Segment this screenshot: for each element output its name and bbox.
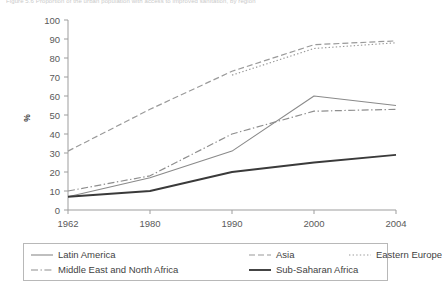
y-tick-label: 50 — [49, 110, 60, 121]
legend-item[interactable]: Asia — [249, 249, 294, 260]
legend-label: Latin America — [58, 249, 116, 260]
y-axis-ticks: 0102030405060708090100 — [44, 15, 68, 216]
x-tick-label: 2004 — [385, 218, 406, 229]
chart-plot-area: 0102030405060708090100 19621980199020002… — [0, 0, 414, 236]
legend-label: Middle East and North Africa — [58, 264, 178, 275]
legend-row: Middle East and North AfricaSub-Saharan … — [31, 263, 380, 278]
y-axis-title: % — [22, 114, 32, 122]
legend-item[interactable]: Middle East and North Africa — [31, 264, 178, 275]
y-tick-label: 100 — [44, 15, 60, 26]
chart-series-line — [232, 43, 396, 75]
legend-item[interactable]: Latin America — [31, 249, 116, 260]
chart-series-group — [68, 41, 396, 197]
legend-row: Latin AmericaAsiaEastern Europe — [31, 248, 380, 263]
chart-series-line — [68, 155, 396, 197]
legend-item[interactable]: Eastern Europe — [349, 249, 442, 260]
legend-label: Eastern Europe — [376, 249, 442, 260]
legend-line-swatch — [349, 250, 371, 259]
y-tick-label: 60 — [49, 91, 60, 102]
legend-line-swatch — [249, 265, 271, 274]
x-tick-label: 2000 — [303, 218, 324, 229]
y-tick-label: 70 — [49, 72, 60, 83]
legend-line-swatch — [249, 250, 271, 259]
y-tick-label: 30 — [49, 148, 60, 159]
x-tick-label: 1980 — [139, 218, 160, 229]
y-tick-label: 90 — [49, 34, 60, 45]
x-tick-label: 1990 — [221, 218, 242, 229]
chart-legend: Latin AmericaAsiaEastern EuropeMiddle Ea… — [23, 243, 388, 281]
legend-label: Sub-Saharan Africa — [276, 264, 358, 275]
y-tick-label: 20 — [49, 167, 60, 178]
legend-line-swatch — [31, 265, 53, 274]
chart-series-line — [68, 109, 396, 191]
legend-line-swatch — [31, 250, 53, 259]
y-tick-label: 40 — [49, 129, 60, 140]
y-tick-label: 80 — [49, 53, 60, 64]
y-tick-label: 10 — [49, 186, 60, 197]
legend-label: Asia — [276, 249, 294, 260]
x-axis-ticks: 19621980199020002004 — [57, 210, 406, 229]
y-tick-label: 0 — [55, 205, 60, 216]
line-chart-svg: 0102030405060708090100 19621980199020002… — [0, 0, 414, 236]
legend-item[interactable]: Sub-Saharan Africa — [249, 264, 358, 275]
x-tick-label: 1962 — [57, 218, 78, 229]
